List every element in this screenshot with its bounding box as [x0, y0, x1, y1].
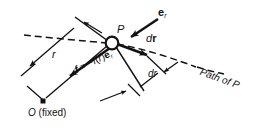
label-point-p: P: [117, 24, 124, 35]
label-radial-increment-dr: dr: [148, 69, 157, 79]
label-unit-vector-er: er: [158, 7, 166, 18]
figure-canvas: P er dr dr r f = −f(r)er Path of P O (fi…: [0, 0, 256, 128]
origin-point-marker: [41, 99, 46, 104]
radius-dimension: [21, 28, 74, 100]
label-origin-o: O (fixed): [28, 108, 66, 118]
dr-scalar-dimension: [140, 56, 178, 87]
particle-p-marker: [106, 37, 119, 50]
transverse-tick-arrow: [84, 22, 102, 33]
label-radius-r: r: [52, 49, 56, 60]
lower-dimension-tick: [100, 84, 140, 101]
label-displacement-vector-dr: dr: [146, 33, 156, 44]
